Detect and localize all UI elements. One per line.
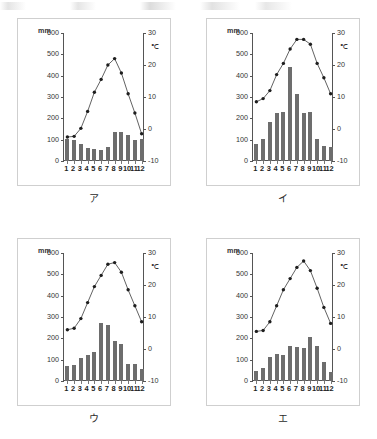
month-label: 5 bbox=[91, 165, 95, 173]
month-axis-labels: 123456789101112 bbox=[60, 385, 147, 395]
right-axis-tick bbox=[143, 161, 146, 162]
climate-chart-ア: mm℃60050040030020010003020100-101月 -2.5℃… bbox=[0, 0, 188, 219]
chart-caption: ウ bbox=[0, 413, 188, 425]
climate-chart-イ: mm℃60050040030020010003020100-101月 8.5℃2… bbox=[189, 0, 377, 219]
right-axis-unit: ℃ bbox=[151, 263, 159, 270]
right-axis-tick bbox=[332, 161, 335, 162]
temperature-point: 8月 28℃ bbox=[302, 38, 305, 41]
month-label: 9 bbox=[307, 165, 311, 173]
month-label: 8 bbox=[301, 165, 305, 173]
month-label: 6 bbox=[98, 385, 102, 393]
temperature-point: 10月 11℃ bbox=[126, 92, 129, 95]
temperature-point: 7月 25.5℃ bbox=[295, 266, 298, 269]
right-axis-label: 20 bbox=[148, 281, 156, 288]
temperature-point: 3月 12℃ bbox=[268, 89, 271, 92]
left-axis-label: 300 bbox=[236, 313, 248, 320]
right-axis-label: 30 bbox=[148, 29, 156, 36]
right-axis-label: -10 bbox=[148, 157, 158, 164]
left-axis-label: 400 bbox=[47, 292, 59, 299]
month-label: 8 bbox=[301, 385, 305, 393]
temperature-point: 4月 17℃ bbox=[275, 73, 278, 76]
left-axis-label: 400 bbox=[47, 72, 59, 79]
right-axis-unit: ℃ bbox=[340, 43, 348, 50]
temperature-point: 1月 6℃ bbox=[66, 328, 69, 331]
month-label: 2 bbox=[71, 165, 75, 173]
temperature-line bbox=[67, 59, 141, 137]
month-label: 5 bbox=[280, 165, 284, 173]
right-axis-label: 10 bbox=[337, 313, 345, 320]
right-axis-tick bbox=[143, 381, 146, 382]
temperature-point: 1月 5.5℃ bbox=[255, 330, 258, 333]
left-axis-label: 300 bbox=[236, 93, 248, 100]
month-label: 1 bbox=[64, 165, 68, 173]
temperature-point: 11月 13.5℃ bbox=[133, 304, 136, 307]
chart-caption: エ bbox=[189, 413, 377, 425]
left-axis-tick bbox=[250, 381, 253, 382]
temperature-line bbox=[256, 261, 330, 331]
worksheet-sheet: mm℃60050040030020010003020100-101月 -2.5℃… bbox=[0, 0, 377, 439]
month-label: 4 bbox=[274, 385, 278, 393]
month-axis-labels: 123456789101112 bbox=[249, 385, 336, 395]
left-axis-label: 0 bbox=[244, 377, 248, 384]
month-label: 4 bbox=[274, 165, 278, 173]
temperature-point: 2月 -2.3℃ bbox=[72, 135, 75, 138]
temperature-point: 2月 6.5℃ bbox=[72, 327, 75, 330]
right-axis-label: 20 bbox=[148, 61, 156, 68]
right-axis-label: -10 bbox=[148, 377, 158, 384]
right-axis-label: 30 bbox=[337, 249, 345, 256]
left-axis-label: 400 bbox=[236, 292, 248, 299]
right-axis-label: -10 bbox=[337, 377, 347, 384]
temperature-point: 3月 0.2℃ bbox=[79, 127, 82, 130]
right-axis-label: 10 bbox=[148, 93, 156, 100]
temperature-point: 6月 25℃ bbox=[288, 47, 291, 50]
month-label: 7 bbox=[105, 165, 109, 173]
right-axis-label: 0 bbox=[148, 125, 152, 132]
temperature-point: 8月 27℃ bbox=[113, 261, 116, 264]
temperature-line-layer: 1月 8.5℃2月 9.5℃3月 12℃4月 17℃5月 20.5℃6月 25℃… bbox=[253, 33, 334, 161]
chart-frame: mm℃60050040030020010003020100-101月 5.5℃2… bbox=[206, 238, 360, 406]
temperature-point: 9月 24℃ bbox=[120, 271, 123, 274]
month-label: 4 bbox=[85, 165, 89, 173]
month-label: 6 bbox=[287, 165, 291, 173]
left-axis-label: 200 bbox=[47, 334, 59, 341]
right-axis-label: 20 bbox=[337, 61, 345, 68]
temperature-point: 11月 5℃ bbox=[133, 111, 136, 114]
plot-area: 60050040030020010003020100-101月 5.5℃2月 5… bbox=[252, 253, 333, 381]
month-label: 8 bbox=[112, 385, 116, 393]
temperature-point: 5月 11.5℃ bbox=[93, 91, 96, 94]
right-axis-label: 10 bbox=[337, 93, 345, 100]
left-axis-label: 300 bbox=[47, 313, 59, 320]
plot-area: 60050040030020010003020100-101月 8.5℃2月 9… bbox=[252, 33, 333, 161]
right-axis-label: 20 bbox=[337, 281, 345, 288]
left-axis-label: 0 bbox=[55, 377, 59, 384]
month-label: 12 bbox=[137, 385, 145, 393]
temperature-point: 9月 26.5℃ bbox=[309, 43, 312, 46]
temperature-point: 11月 13℃ bbox=[322, 306, 325, 309]
month-label: 6 bbox=[287, 385, 291, 393]
right-axis-label: 10 bbox=[148, 313, 156, 320]
left-axis-tick bbox=[61, 161, 64, 162]
left-axis-label: 200 bbox=[47, 114, 59, 121]
month-label: 2 bbox=[260, 385, 264, 393]
temperature-point: 6月 22℃ bbox=[288, 277, 291, 280]
right-axis-label: 30 bbox=[148, 249, 156, 256]
chart-frame: mm℃60050040030020010003020100-101月 -2.5℃… bbox=[17, 18, 171, 186]
month-label: 8 bbox=[112, 165, 116, 173]
month-label: 6 bbox=[98, 165, 102, 173]
temperature-line-layer: 1月 -2.5℃2月 -2.3℃3月 0.2℃4月 5.5℃5月 11.5℃6月… bbox=[64, 33, 145, 161]
left-axis-tick bbox=[250, 161, 253, 162]
left-axis-label: 200 bbox=[236, 334, 248, 341]
temperature-point: 5月 20.5℃ bbox=[282, 62, 285, 65]
temperature-point: 4月 5.5℃ bbox=[86, 110, 89, 113]
left-axis-label: 300 bbox=[47, 93, 59, 100]
temperature-point: 5月 19.5℃ bbox=[93, 285, 96, 288]
temperature-point: 3月 9.5℃ bbox=[79, 317, 82, 320]
right-axis-unit: ℃ bbox=[151, 43, 159, 50]
temperature-point: 2月 5.8℃ bbox=[261, 329, 264, 332]
temperature-point: 3月 8.5℃ bbox=[268, 320, 271, 323]
month-label: 2 bbox=[260, 165, 264, 173]
left-axis-label: 100 bbox=[47, 136, 59, 143]
climate-chart-エ: mm℃60050040030020010003020100-101月 5.5℃2… bbox=[189, 220, 377, 439]
temperature-point: 4月 14.5℃ bbox=[86, 301, 89, 304]
left-axis-label: 600 bbox=[47, 249, 59, 256]
